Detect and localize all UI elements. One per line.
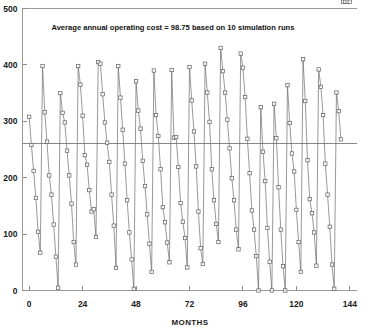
- data-point-marker: [279, 228, 282, 231]
- y-axis-tick-labels: 0100200300400500: [3, 4, 17, 296]
- data-point-marker: [68, 174, 71, 177]
- data-point-marker: [277, 186, 280, 189]
- data-point-marker: [72, 240, 75, 243]
- data-point-marker: [199, 247, 202, 250]
- series-lines: [29, 48, 341, 291]
- data-point-marker: [304, 99, 307, 102]
- data-point-marker: [34, 196, 37, 199]
- y-tick-label: 100: [3, 229, 17, 239]
- data-point-marker: [145, 213, 148, 216]
- y-tick-label: 200: [3, 173, 17, 183]
- y-tick-label: 500: [3, 4, 17, 14]
- x-tick-label: 48: [131, 299, 141, 309]
- data-point-marker: [319, 85, 322, 88]
- data-point-marker: [41, 64, 44, 67]
- data-point-marker: [105, 141, 108, 144]
- data-point-marker: [301, 58, 304, 61]
- data-point-marker: [170, 68, 173, 71]
- data-point-marker: [295, 208, 298, 211]
- data-point-marker: [161, 205, 164, 208]
- x-tick-label: 120: [289, 299, 303, 309]
- data-point-marker: [252, 228, 255, 231]
- data-point-marker: [321, 113, 324, 116]
- data-point-marker: [250, 209, 253, 212]
- data-point-marker: [310, 212, 313, 215]
- data-point-marker: [139, 127, 142, 130]
- data-point-marker: [74, 263, 77, 266]
- data-point-marker: [43, 111, 46, 114]
- average-operating-cost-note: Average annual operating cost = 98.75 ba…: [51, 23, 294, 32]
- data-point-marker: [79, 83, 82, 86]
- data-point-marker: [36, 230, 39, 233]
- data-point-marker: [83, 153, 86, 156]
- x-tick-label: 0: [27, 299, 32, 309]
- data-point-marker: [159, 168, 162, 171]
- data-point-marker: [275, 137, 278, 140]
- data-point-marker: [27, 115, 30, 118]
- data-point-marker: [39, 251, 42, 254]
- data-point-marker: [217, 240, 220, 243]
- data-point-marker: [215, 222, 218, 225]
- data-point-marker: [292, 170, 295, 173]
- data-point-marker: [183, 236, 186, 239]
- data-point-marker: [197, 210, 200, 213]
- chart-canvas: 0100200300400500 024487296120144 Average…: [0, 0, 370, 332]
- data-point-marker: [261, 150, 264, 153]
- data-point-marker: [88, 188, 91, 191]
- data-point-marker: [328, 225, 331, 228]
- data-point-marker: [85, 163, 88, 166]
- data-point-marker: [128, 231, 131, 234]
- plot-border: [23, 9, 357, 291]
- y-tick-label: 300: [3, 116, 17, 126]
- data-point-marker: [259, 106, 262, 109]
- data-point-marker: [52, 223, 55, 226]
- data-point-marker: [188, 65, 191, 68]
- x-axis-tick-labels: 024487296120144: [27, 299, 357, 309]
- y-axis-ticks: [23, 9, 27, 291]
- data-point-marker: [143, 184, 146, 187]
- data-point-marker: [299, 270, 302, 273]
- data-point-marker: [246, 137, 249, 140]
- data-point-marker: [54, 255, 57, 258]
- data-point-marker: [221, 69, 224, 72]
- data-point-marker: [297, 240, 300, 243]
- y-tick-label: 400: [3, 60, 17, 70]
- data-point-marker: [264, 179, 267, 182]
- data-point-marker: [308, 197, 311, 200]
- data-point-marker: [123, 162, 126, 165]
- data-point-marker: [324, 162, 327, 165]
- data-point-marker: [148, 242, 151, 245]
- operating-cost-chart: 0100200300400500 024487296120144 Average…: [0, 0, 370, 332]
- data-point-marker: [92, 208, 95, 211]
- data-point-marker: [70, 202, 73, 205]
- data-point-marker: [181, 220, 184, 223]
- data-point-marker: [179, 201, 182, 204]
- data-point-marker: [134, 80, 137, 83]
- data-point-marker: [45, 140, 48, 143]
- data-point-marker: [108, 160, 111, 163]
- x-tick-label: 72: [185, 299, 195, 309]
- data-point-marker: [212, 199, 215, 202]
- data-point-marker: [166, 241, 169, 244]
- data-point-marker: [228, 147, 231, 150]
- data-point-marker: [219, 46, 222, 49]
- data-point-marker: [174, 135, 177, 138]
- data-point-marker: [255, 254, 258, 257]
- data-point-marker: [268, 260, 271, 263]
- data-point-marker: [194, 165, 197, 168]
- data-point-marker: [230, 177, 233, 180]
- data-point-marker: [210, 168, 213, 171]
- chart-annotations: Average annual operating cost = 98.75 ba…: [51, 23, 294, 32]
- data-point-marker: [110, 193, 113, 196]
- data-point-marker: [317, 68, 320, 71]
- data-point-marker: [348, 0, 351, 3]
- data-point-marker: [177, 165, 180, 168]
- data-point-marker: [59, 91, 62, 94]
- data-point-marker: [235, 228, 238, 231]
- data-point-marker: [337, 109, 340, 112]
- data-point-marker: [48, 174, 51, 177]
- data-point-marker: [192, 130, 195, 133]
- data-point-marker: [157, 134, 160, 137]
- data-point-marker: [281, 265, 284, 268]
- data-point-marker: [137, 109, 140, 112]
